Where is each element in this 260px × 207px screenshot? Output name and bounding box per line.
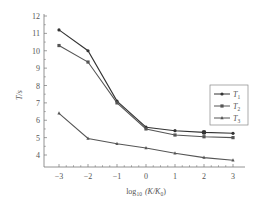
circle-marker-icon (86, 49, 89, 52)
y-tick-label: 4 (36, 151, 40, 160)
square-marker-icon (86, 60, 89, 63)
square-marker-icon (57, 44, 60, 47)
legend: T1T2T3 (210, 85, 248, 125)
legend-box (210, 85, 248, 125)
circle-marker-icon (220, 92, 223, 95)
y-tick-label: 9 (36, 64, 40, 73)
circle-marker-icon (173, 129, 176, 132)
square-marker-icon (220, 104, 223, 107)
triangle-marker-icon (57, 111, 60, 114)
x-tick-label: −3 (55, 172, 64, 181)
circle-marker-icon (57, 28, 60, 31)
x-tick-label: 1 (173, 172, 177, 181)
circle-marker-icon (202, 130, 207, 135)
y-tick-label: 10 (32, 47, 40, 56)
square-marker-icon (202, 135, 205, 138)
y-tick-label: 12 (32, 12, 40, 21)
square-marker-icon (144, 127, 147, 130)
x-tick-label: 3 (231, 172, 235, 181)
x-tick-label: −1 (113, 172, 122, 181)
circle-marker-icon (231, 132, 234, 135)
series-t1 (57, 28, 234, 135)
square-marker-icon (115, 101, 118, 104)
y-tick-label: 11 (32, 29, 40, 38)
square-marker-icon (231, 136, 234, 139)
series-t2 (57, 44, 234, 139)
x-tick-label: 2 (202, 172, 206, 181)
y-tick-label: 7 (36, 99, 40, 108)
x-axis-label: log10(K/K0) (126, 187, 166, 197)
y-tick-label: 6 (36, 116, 40, 125)
line-chart: 456789101112−3−2−10123T/slog10(K/K0) T1T… (0, 0, 260, 207)
x-tick-label: 0 (144, 172, 148, 181)
x-tick-label: −2 (84, 172, 93, 181)
y-tick-label: 8 (36, 82, 40, 91)
y-tick-label: 5 (36, 134, 40, 143)
series-group (57, 28, 234, 161)
y-axis-label: T/s (15, 90, 24, 100)
square-marker-icon (173, 133, 176, 136)
